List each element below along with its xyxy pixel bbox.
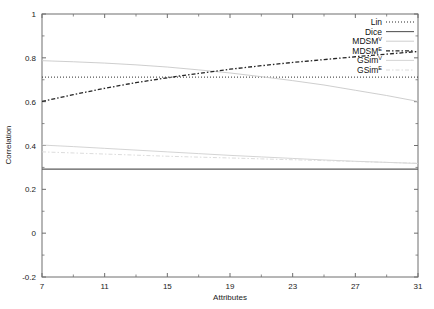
correlation-line-chart: -0.200.20.40.60.81 7111519232731 LinDice… bbox=[0, 0, 434, 309]
chart-figure: -0.200.20.40.60.81 7111519232731 LinDice… bbox=[0, 0, 434, 309]
x-tick-label: 19 bbox=[226, 282, 235, 291]
x-tick-label: 27 bbox=[351, 282, 360, 291]
x-axis-title: Attributes bbox=[213, 293, 247, 302]
x-tick-label: 15 bbox=[163, 282, 172, 291]
y-axis-title: Correlation bbox=[4, 125, 13, 164]
y-tick-label: 1 bbox=[32, 10, 37, 19]
x-tick-label: 31 bbox=[414, 282, 423, 291]
y-tick-label: 0.4 bbox=[25, 142, 37, 151]
y-tick-label: 0 bbox=[32, 229, 37, 238]
y-tick-label: 0.8 bbox=[25, 54, 37, 63]
x-tick-label: 11 bbox=[101, 282, 110, 291]
y-tick-label: -0.2 bbox=[22, 273, 36, 282]
y-tick-label: 0.2 bbox=[25, 185, 37, 194]
x-tick-label: 23 bbox=[288, 282, 297, 291]
y-tick-label: 0.6 bbox=[25, 98, 37, 107]
legend-label-lin: Lin bbox=[371, 17, 383, 27]
x-tick-label: 7 bbox=[40, 282, 45, 291]
